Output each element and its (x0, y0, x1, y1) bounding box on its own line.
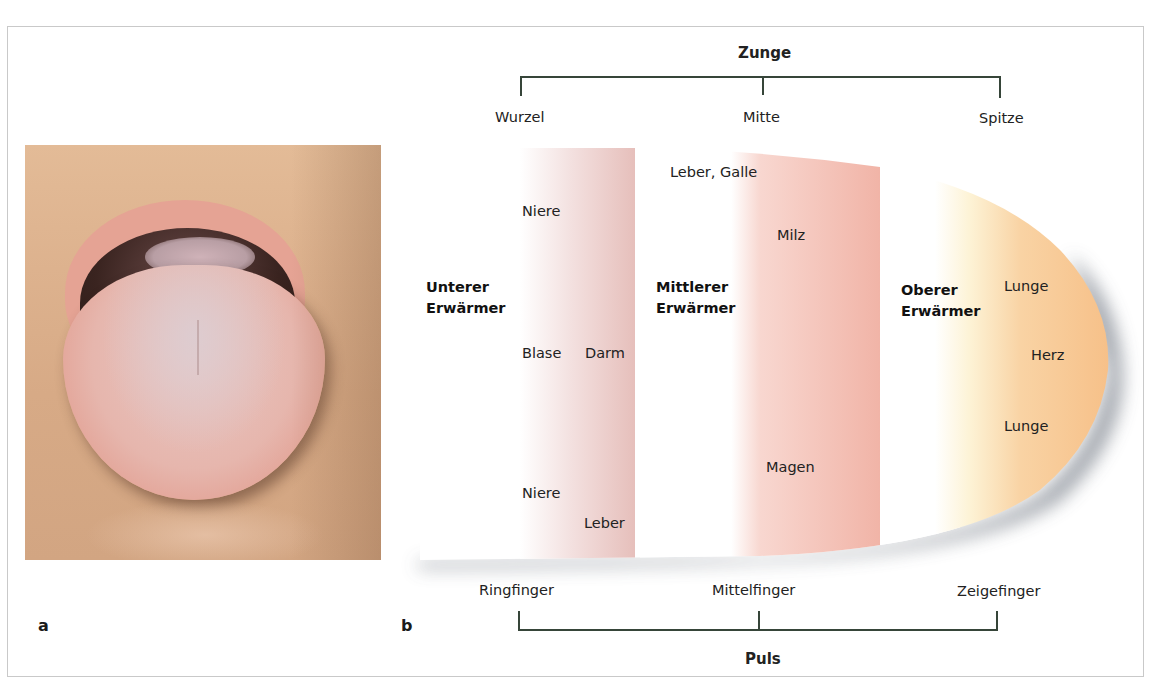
pulse-bracket-tick-mid (758, 611, 760, 630)
zone-middle-title: Mittlerer Erwärmer (656, 277, 735, 319)
pulse-bracket-tick-right (996, 611, 998, 631)
tongue-bracket-tick-mid (762, 76, 764, 95)
pulse-ring-finger: Ringfinger (479, 582, 554, 598)
pulse-index-finger: Zeigefinger (957, 583, 1040, 599)
zone-lower-title: Unterer Erwärmer (426, 277, 505, 319)
organ-liver-lower: Leber (584, 515, 625, 531)
pulse-bracket-tick-left (518, 611, 520, 631)
tongue-part-tip: Spitze (979, 110, 1024, 126)
pulse-bracket-bar (518, 629, 998, 631)
tongue-part-root: Wurzel (495, 109, 545, 125)
organ-stomach: Magen (766, 459, 815, 475)
organ-lung-bottom: Lunge (1004, 418, 1048, 434)
organ-kidney-top: Niere (522, 203, 560, 219)
tongue-bracket-tick-left (520, 76, 522, 96)
organ-bladder: Blase (522, 345, 561, 361)
organ-kidney-bottom: Niere (522, 485, 560, 501)
organ-intestine: Darm (585, 345, 625, 361)
pulse-middle-finger: Mittelfinger (712, 582, 795, 598)
tongue-title: Zunge (738, 44, 791, 62)
zone-upper-title: Oberer Erwärmer (901, 280, 980, 322)
organ-liver-gallbladder: Leber, Galle (670, 164, 757, 180)
tongue-bracket-bar (520, 76, 1001, 78)
organ-spleen: Milz (777, 227, 805, 243)
organ-lung-top: Lunge (1004, 278, 1048, 294)
tongue-part-middle: Mitte (743, 109, 780, 125)
organ-heart: Herz (1031, 347, 1064, 363)
pulse-title: Puls (745, 650, 781, 668)
zone-middle-fill (640, 140, 880, 560)
tongue-bracket-tick-right (999, 76, 1001, 98)
